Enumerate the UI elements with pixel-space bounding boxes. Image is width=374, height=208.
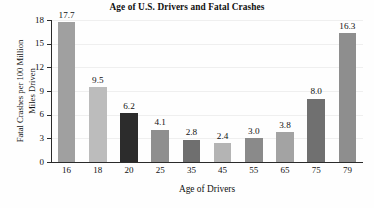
y-tick-label: 9	[14, 87, 44, 96]
x-axis-line	[51, 162, 363, 163]
chart-figure: Age of U.S. Drivers and Fatal Crashes Fa…	[0, 0, 374, 208]
bar[interactable]	[183, 140, 201, 162]
y-tick-label: 12	[14, 63, 44, 72]
bar[interactable]	[276, 132, 294, 162]
bar-value-label: 4.1	[143, 118, 177, 127]
bar-value-label: 8.0	[299, 87, 333, 96]
x-tick-label: 16	[50, 166, 84, 175]
x-tick-label: 25	[143, 166, 177, 175]
bar[interactable]	[245, 138, 263, 162]
y-tick-label: 15	[14, 39, 44, 48]
x-tick-label: 18	[81, 166, 115, 175]
y-tick-label: 3	[14, 134, 44, 143]
bar[interactable]	[339, 33, 357, 162]
bar[interactable]	[151, 130, 169, 162]
x-tick-label: 20	[112, 166, 146, 175]
bar-value-label: 16.3	[330, 22, 364, 31]
x-tick-label: 65	[268, 166, 302, 175]
y-tick-label: 0	[14, 158, 44, 167]
y-tick-label: 6	[14, 110, 44, 119]
bar[interactable]	[307, 99, 325, 162]
bar[interactable]	[120, 113, 138, 162]
bar-value-label: 2.4	[206, 132, 240, 141]
bar-value-label: 9.5	[81, 76, 115, 85]
bar-series: 17.79.56.24.12.82.43.03.88.016.3	[51, 20, 363, 162]
bar-value-label: 17.7	[50, 11, 84, 20]
bar-value-label: 2.8	[174, 128, 208, 137]
bar[interactable]	[214, 143, 232, 162]
bar-value-label: 3.8	[268, 121, 302, 130]
y-tick-label: 18	[14, 16, 44, 25]
x-tick-label: 75	[299, 166, 333, 175]
x-tick-label: 35	[174, 166, 208, 175]
bar[interactable]	[89, 87, 107, 162]
x-tick-label: 55	[237, 166, 271, 175]
x-tick-label: 79	[330, 166, 364, 175]
x-tick-label: 45	[206, 166, 240, 175]
bar-value-label: 6.2	[112, 102, 146, 111]
x-axis-label: Age of Drivers	[51, 184, 363, 194]
bar[interactable]	[58, 22, 76, 162]
bar-value-label: 3.0	[237, 127, 271, 136]
